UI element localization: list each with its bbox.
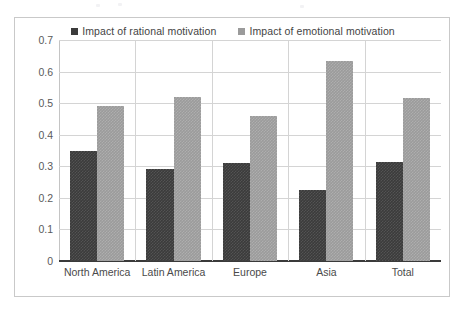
legend-label-rational: Impact of rational motivation [82,25,216,37]
bar-rational[interactable] [299,190,326,261]
bar-group [288,40,364,261]
bar-emotional[interactable] [403,98,430,261]
legend-square-dark-icon [71,28,78,35]
x-axis-tick-label: Asia [288,266,364,278]
y-axis-tick-label: 0.5 [23,97,53,109]
legend-item-rational[interactable]: Impact of rational motivation [71,25,216,37]
chart-frame: Impact of rational motivation Impact of … [14,17,450,297]
bar-emotional[interactable] [250,116,277,261]
y-axis-tick-label: 0.2 [23,192,53,204]
scan-artifact-strip [0,0,463,14]
y-axis-tick-labels: 00.10.20.30.40.50.60.7 [19,40,53,261]
bar-group [365,40,441,261]
y-axis-tick-label: 0.7 [23,34,53,46]
legend-label-emotional: Impact of emotional motivation [249,25,394,37]
bar-rational[interactable] [223,163,250,261]
bar-group [212,40,288,261]
bar-group [59,40,135,261]
legend-item-emotional[interactable]: Impact of emotional motivation [238,25,394,37]
bar-emotional[interactable] [174,97,201,261]
bar-rational[interactable] [146,169,173,261]
bar-rational[interactable] [70,151,97,262]
x-axis-tick-label: Europe [212,266,288,278]
y-axis-tick-label: 0.4 [23,129,53,141]
x-axis-tick-label: Latin America [135,266,211,278]
bar-rational[interactable] [376,162,403,261]
plot-area [59,40,441,261]
bar-emotional[interactable] [97,106,124,261]
x-axis-tick-label: North America [59,266,135,278]
chart-legend: Impact of rational motivation Impact of … [15,23,451,39]
y-axis-tick-label: 0 [23,255,53,267]
bar-emotional[interactable] [326,61,353,261]
legend-square-light-icon [238,28,245,35]
y-axis-tick-label: 0.3 [23,160,53,172]
x-axis-category-labels: North AmericaLatin AmericaEuropeAsiaTota… [59,266,441,282]
x-axis-tick-label: Total [365,266,441,278]
y-axis-tick-label: 0.1 [23,223,53,235]
y-axis-tick-label: 0.6 [23,66,53,78]
bar-group [135,40,211,261]
